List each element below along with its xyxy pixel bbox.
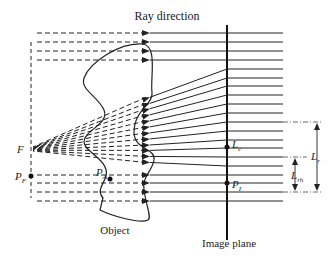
dashed-ray (33, 109, 146, 148)
dashed-ray (33, 133, 146, 149)
image-plane-label: Image plane (202, 237, 256, 249)
dashed-ray (33, 97, 146, 147)
dashed-ray (33, 115, 146, 148)
l-r-label: Lr (310, 150, 320, 165)
dashed-ray (33, 151, 146, 162)
dashed-ray-group (33, 33, 146, 201)
ray-direction-label: Ray direction (135, 9, 200, 23)
diagram: Ray direction F PF PA Lc PI Lr (0, 0, 334, 262)
p-i-label: PI (231, 178, 242, 193)
p-f-point (29, 174, 34, 179)
l-c-point (225, 145, 230, 150)
l-rh-label: Lrh (290, 169, 304, 184)
dashed-ray (33, 151, 146, 157)
ray-group (150, 33, 283, 201)
ray-diagram-canvas: Ray direction F PF PA Lc PI Lr (0, 0, 334, 262)
object-label: Object (100, 224, 129, 236)
p-a-point (108, 177, 113, 182)
focal-point-label: F (16, 143, 24, 155)
p-i-point (225, 181, 230, 186)
p-f-label: PF (14, 170, 27, 185)
